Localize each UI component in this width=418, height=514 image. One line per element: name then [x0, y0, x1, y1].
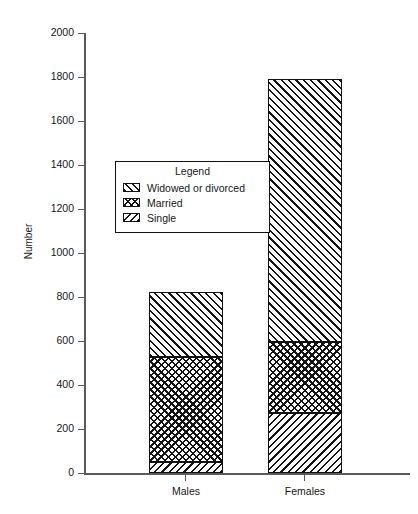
- chart-title: [0, 0, 418, 6]
- y-tick-1000: [78, 253, 85, 254]
- y-tick-200: [78, 429, 85, 430]
- x-tick-label-females: Females: [245, 485, 365, 497]
- y-tick-1400: [78, 165, 85, 166]
- bar-segment-females-single[interactable]: [268, 413, 342, 473]
- x-tick-males: [185, 474, 186, 481]
- legend-label-single: Single: [147, 212, 176, 224]
- y-tick-label-600: 600: [14, 334, 74, 346]
- y-tick-label-1600: 1600: [14, 114, 74, 126]
- legend-item-widowed-or-divorced[interactable]: Widowed or divorced: [116, 180, 269, 195]
- stacked-bar-chart: 2000 1800 1600 1400 1200 1000 800 600 40…: [0, 0, 418, 514]
- legend: Legend Widowed or divorced Married Singl…: [115, 161, 270, 233]
- y-axis-title: Number: [23, 197, 34, 287]
- bar-segment-females-widowed-or-divorced[interactable]: [268, 79, 342, 342]
- y-tick-label-800: 800: [14, 290, 74, 302]
- bar-segment-males-widowed-or-divorced[interactable]: [149, 292, 223, 357]
- bar-segment-males-married[interactable]: [149, 357, 223, 462]
- x-tick-label-males: Males: [126, 485, 246, 497]
- legend-swatch-married-icon: [123, 198, 140, 207]
- y-tick-1200: [78, 209, 85, 210]
- legend-swatch-single-icon: [123, 213, 140, 222]
- y-tick-label-1400: 1400: [14, 158, 74, 170]
- y-tick-1600: [78, 121, 85, 122]
- legend-swatch-widowed-or-divorced-icon: [123, 183, 140, 192]
- y-tick-label-2000: 2000: [14, 26, 74, 38]
- y-tick-label-0: 0: [14, 466, 74, 478]
- y-tick-1800: [78, 77, 85, 78]
- legend-item-single[interactable]: Single: [116, 210, 269, 225]
- y-tick-label-400: 400: [14, 378, 74, 390]
- bar-segment-males-single[interactable]: [149, 462, 223, 473]
- y-tick-400: [78, 385, 85, 386]
- y-tick-label-200: 200: [14, 422, 74, 434]
- y-tick-0: [78, 473, 85, 474]
- legend-title: Legend: [116, 165, 269, 177]
- y-tick-label-1800: 1800: [14, 70, 74, 82]
- y-tick-600: [78, 341, 85, 342]
- y-tick-2000: [78, 33, 85, 34]
- legend-label-widowed-or-divorced: Widowed or divorced: [147, 182, 245, 194]
- bar-segment-females-married[interactable]: [268, 342, 342, 413]
- x-axis-line: [84, 473, 410, 475]
- legend-label-married: Married: [147, 197, 183, 209]
- legend-item-married[interactable]: Married: [116, 195, 269, 210]
- x-tick-females: [304, 474, 305, 481]
- y-tick-800: [78, 297, 85, 298]
